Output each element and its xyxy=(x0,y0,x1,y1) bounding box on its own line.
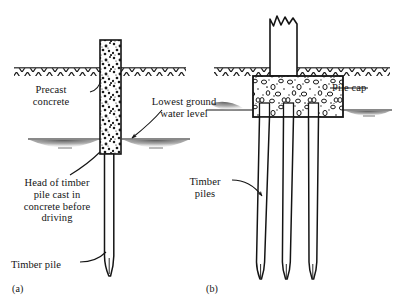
timber-pile-tip-lines xyxy=(261,264,313,278)
ground-surface-b xyxy=(214,68,390,76)
label-lowest-ground-water-level: Lowest ground water level xyxy=(138,96,230,120)
leader-timber-pile xyxy=(80,252,106,262)
label-head-of-timber-pile: Head of timber pile cast in concrete bef… xyxy=(5,177,109,224)
timber-pile-3 xyxy=(309,117,319,279)
label-pile-cap: Pile cap xyxy=(332,82,392,94)
water-table-left-a xyxy=(28,139,100,148)
water-table-right-b xyxy=(343,110,392,116)
timber-pile-1 xyxy=(257,117,270,279)
label-timber-piles: Timber piles xyxy=(176,176,234,200)
panel-b-drawing xyxy=(206,16,392,279)
timber-pile-2 xyxy=(282,117,293,279)
caption-panel-a: (a) xyxy=(12,283,42,294)
water-table-right-a xyxy=(122,139,190,148)
figure-timber-pile-foundations: Precast concrete Lowest ground water lev… xyxy=(0,0,398,308)
timber-piles-group-b xyxy=(257,117,319,279)
pile-heads-in-cap xyxy=(260,103,319,117)
caption-panel-b: (b) xyxy=(206,283,236,294)
label-precast-concrete: Precast concrete xyxy=(14,84,88,108)
broken-column-b xyxy=(270,16,297,76)
panel-a-drawing xyxy=(14,40,190,276)
leader-head-of-timber-pile xyxy=(70,152,100,175)
label-timber-pile: Timber pile xyxy=(11,259,83,271)
precast-concrete-column xyxy=(100,40,121,154)
